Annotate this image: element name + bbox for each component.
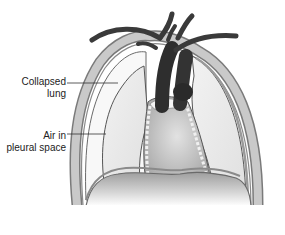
diaphragm [86, 172, 251, 206]
collapsed-lung-illustration [0, 0, 285, 235]
label-collapsed-lung-line1: Collapsed [22, 76, 66, 88]
label-collapsed-lung-line2: lung [22, 88, 66, 100]
label-collapsed-lung: Collapsed lung [22, 76, 66, 100]
label-air-line2: pleural space [7, 142, 66, 154]
label-air-line1: Air in [7, 130, 66, 142]
label-air-in-pleural-space: Air in pleural space [7, 130, 66, 154]
